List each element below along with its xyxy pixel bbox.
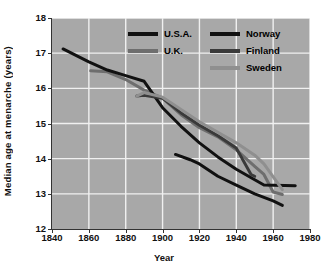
x-tick-label: 1960 [253, 233, 293, 243]
legend-label: Finland [246, 45, 280, 56]
y-tick-label: 16 [24, 83, 46, 93]
plot-area: U.S.A.U.K. NorwayFinlandSweden [52, 18, 310, 229]
legend-label: Sweden [246, 62, 282, 73]
series-line-finland [137, 95, 255, 176]
legend-column-left: U.S.A.U.K. [128, 25, 192, 59]
legend-swatch [128, 49, 158, 53]
legend-swatch [210, 32, 240, 36]
x-tick-label: 1900 [143, 233, 183, 243]
series-line-sweden [137, 93, 283, 190]
x-tick-label: 1880 [106, 233, 146, 243]
legend-swatch [128, 32, 158, 36]
legend-swatch [210, 66, 240, 70]
y-tick-label: 14 [24, 154, 46, 164]
y-axis-title: Median age at menarche (years) [2, 46, 13, 196]
x-tick-label: 1920 [179, 233, 219, 243]
legend-item-usa: U.S.A. [128, 25, 192, 42]
y-tick-label: 18 [24, 13, 46, 23]
legend-label: Norway [246, 28, 280, 39]
legend-swatch [210, 49, 240, 53]
y-tick-label: 17 [24, 48, 46, 58]
y-tick-label: 15 [24, 119, 46, 129]
legend-item-finland: Finland [210, 42, 282, 59]
legend-item-norway: Norway [210, 25, 282, 42]
legend-item-sweden: Sweden [210, 59, 282, 76]
legend-label: U.K. [164, 45, 183, 56]
x-tick-label: 1860 [69, 233, 109, 243]
x-tick-label: 1980 [290, 233, 328, 243]
y-tick-label: 13 [24, 189, 46, 199]
legend-column-right: NorwayFinlandSweden [210, 25, 282, 76]
chart-figure: Median age at menarche (years) 121314151… [0, 0, 328, 273]
y-axis-line [51, 18, 52, 230]
x-axis-line [51, 229, 311, 230]
legend-item-uk: U.K. [128, 42, 192, 59]
x-tick-label: 1840 [32, 233, 72, 243]
x-tick-label: 1940 [216, 233, 256, 243]
x-axis-title: Year [0, 252, 328, 263]
chart-legend: U.S.A.U.K. NorwayFinlandSweden [52, 18, 310, 78]
legend-label: U.S.A. [164, 28, 192, 39]
